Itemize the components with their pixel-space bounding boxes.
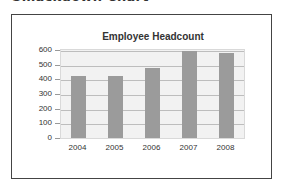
- chart-title: Employee Headcount: [0, 31, 284, 42]
- y-tick-label: 400: [22, 75, 52, 83]
- y-tick-label: 500: [22, 61, 52, 69]
- page-heading: Smackdown Chart: [12, 0, 149, 4]
- y-tick-label: 600: [22, 46, 52, 54]
- x-tick-label: 2008: [211, 143, 241, 152]
- y-tick-label: 0: [22, 134, 52, 142]
- plot-area: [60, 49, 245, 139]
- bar-2008: [219, 53, 234, 138]
- gridline: [61, 51, 244, 52]
- x-tick-label: 2005: [100, 143, 130, 152]
- bar-2006: [145, 68, 160, 138]
- bar-2005: [108, 76, 123, 138]
- bar-2004: [71, 76, 86, 138]
- gridline: [61, 66, 244, 67]
- x-tick-label: 2004: [63, 143, 93, 152]
- bar-2007: [182, 51, 197, 138]
- x-tick-label: 2006: [137, 143, 167, 152]
- y-tick-label: 300: [22, 90, 52, 98]
- y-tick-label: 200: [22, 105, 52, 113]
- x-tick-label: 2007: [174, 143, 204, 152]
- y-tick-label: 100: [22, 119, 52, 127]
